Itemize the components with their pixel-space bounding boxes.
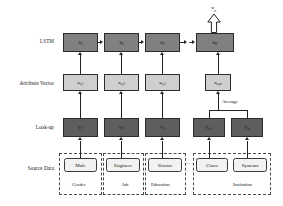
lookup-node-n[interactable]: Vn bbox=[231, 118, 263, 137]
engineer-to-lookup2-arrowhead bbox=[119, 137, 123, 140]
lstm-link-gap-n-arrowhead bbox=[192, 40, 195, 44]
attribute-node-1-label: au,1 bbox=[77, 80, 83, 85]
source-item-systems[interactable]: Systems bbox=[233, 158, 267, 172]
average-to-attrm-arrowhead bbox=[216, 91, 220, 94]
source-item-cisco[interactable]: Cisco bbox=[196, 158, 228, 172]
attr2-to-lstm2-arrowhead bbox=[119, 52, 123, 55]
lookup1-to-attr1-line bbox=[80, 94, 81, 118]
lstm-node-n-label: hN bbox=[213, 40, 218, 45]
lstm-node-3[interactable]: h3 bbox=[145, 33, 180, 52]
attr3-to-lstm3-arrowhead bbox=[160, 52, 164, 55]
doctor-to-lookup3-arrowhead bbox=[160, 137, 164, 140]
attr1-to-lstm1-arrowhead bbox=[78, 52, 82, 55]
lookup-node-2-label: V2 bbox=[119, 125, 124, 130]
source-item-doctor[interactable]: Doctor bbox=[148, 158, 182, 172]
group-label-job: Job bbox=[122, 182, 128, 187]
cisco-to-lookup-n-minus-1-line bbox=[209, 141, 210, 158]
lookup-n-riser bbox=[247, 110, 248, 118]
lookup2-to-attr2-arrowhead bbox=[119, 91, 123, 94]
row-label-source-data: Source Data bbox=[4, 165, 54, 171]
lstm-link-3-gap-arrowhead bbox=[184, 40, 187, 44]
male-to-lookup1-arrowhead bbox=[78, 137, 82, 140]
lookup-node-1[interactable]: V1 bbox=[63, 118, 98, 137]
lookup3-to-attr3-arrowhead bbox=[160, 91, 164, 94]
lstm-node-2-label: h2 bbox=[119, 40, 123, 45]
lstm-link-1-2-arrowhead bbox=[100, 40, 103, 44]
lstm-node-1[interactable]: h1 bbox=[63, 33, 98, 52]
lstm-node-2[interactable]: h2 bbox=[104, 33, 139, 52]
lookup-node-n-label: Vn bbox=[244, 125, 249, 130]
attribute-node-3-label: au,3 bbox=[159, 80, 165, 85]
engineer-to-lookup2-line bbox=[121, 141, 122, 158]
output-label: wu bbox=[211, 5, 216, 12]
group-label-institution: Institution bbox=[233, 182, 252, 187]
average-label: Average bbox=[222, 99, 238, 104]
male-to-lookup1-line bbox=[80, 141, 81, 158]
attribute-node-2[interactable]: au,2 bbox=[104, 74, 139, 91]
attrm-to-lstmn-arrowhead bbox=[216, 52, 220, 55]
lookup-node-3[interactable]: V3 bbox=[145, 118, 180, 137]
attribute-node-3[interactable]: au,3 bbox=[145, 74, 180, 91]
lookup2-to-attr2-line bbox=[121, 94, 122, 118]
attr1-to-lstm1-line bbox=[80, 55, 81, 74]
output-hollow-arrow-icon bbox=[206, 13, 222, 33]
lstm-node-n[interactable]: hN bbox=[196, 33, 234, 52]
attrm-to-lstmn-line bbox=[218, 55, 219, 74]
lookup3-to-attr3-line bbox=[162, 94, 163, 118]
lstm-node-3-label: h3 bbox=[160, 40, 164, 45]
attr2-to-lstm2-line bbox=[121, 55, 122, 74]
group-label-education: Education bbox=[151, 182, 170, 187]
row-label-look-up: Look-up bbox=[8, 124, 54, 130]
lstm-node-1-label: h1 bbox=[78, 40, 82, 45]
lookup-node-n-minus-1-label: Vn-1 bbox=[205, 125, 213, 130]
systems-to-lookup-n-arrowhead bbox=[245, 137, 249, 140]
lookup-node-n-minus-1[interactable]: Vn-1 bbox=[193, 118, 225, 137]
row-label-attribute-vector: Attribute Vector bbox=[2, 80, 54, 86]
attribute-node-m-label: au,m bbox=[214, 80, 221, 85]
lookup-node-3-label: V3 bbox=[160, 125, 165, 130]
lookup-node-2[interactable]: V2 bbox=[104, 118, 139, 137]
attribute-node-1[interactable]: au,1 bbox=[63, 74, 98, 91]
average-merge-bar bbox=[209, 110, 248, 111]
lookup-node-1-label: V1 bbox=[78, 125, 83, 130]
diagram-canvas: LSTM Attribute Vector Look-up Source Dat… bbox=[0, 0, 283, 206]
lookup-n-minus-1-riser bbox=[209, 110, 210, 118]
lstm-link-2-3-arrowhead bbox=[141, 40, 144, 44]
attribute-node-2-label: au,2 bbox=[118, 80, 124, 85]
attr3-to-lstm3-line bbox=[162, 55, 163, 74]
row-label-lstm: LSTM bbox=[8, 38, 54, 44]
source-item-engineer[interactable]: Engineer bbox=[106, 158, 140, 172]
source-item-male[interactable]: Male bbox=[64, 158, 97, 172]
group-label-gender: Gender bbox=[72, 182, 86, 187]
attribute-node-m[interactable]: au,m bbox=[205, 74, 231, 91]
average-to-attrm-line bbox=[218, 94, 219, 111]
cisco-to-lookup-n-minus-1-arrowhead bbox=[207, 137, 211, 140]
lookup1-to-attr1-arrowhead bbox=[78, 91, 82, 94]
source-groups-ellipsis: ··· bbox=[186, 161, 194, 167]
systems-to-lookup-n-line bbox=[247, 141, 248, 158]
doctor-to-lookup3-line bbox=[162, 141, 163, 158]
